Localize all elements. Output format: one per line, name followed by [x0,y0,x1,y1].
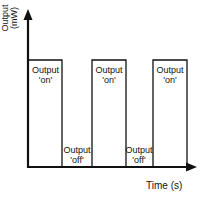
y-axis-arrow-icon [24,9,33,20]
state-label-line2: 'on' [29,75,62,85]
state-label-line1: Output [153,65,187,75]
state-label-on-2: Output 'on' [92,65,126,85]
state-label-line1: Output [61,145,93,155]
state-label-line2: 'on' [92,75,126,85]
state-label-line2: 'on' [153,75,187,85]
state-label-line1: Output [124,145,154,155]
state-label-line2: 'off' [124,155,154,165]
state-label-line1: Output [92,65,126,75]
pulse-diagram-canvas [0,0,208,198]
state-label-line1: Output [29,65,62,75]
y-axis-label: Output (mW) [1,2,19,34]
state-label-off-1: Output 'off' [61,145,93,165]
y-axis-label-line2: (mW) [10,2,19,34]
state-label-off-2: Output 'off' [124,145,154,165]
state-label-line2: 'off' [61,155,93,165]
state-label-on-3: Output 'on' [153,65,187,85]
state-label-on-1: Output 'on' [29,65,62,85]
x-axis-label: Time (s) [146,180,182,191]
